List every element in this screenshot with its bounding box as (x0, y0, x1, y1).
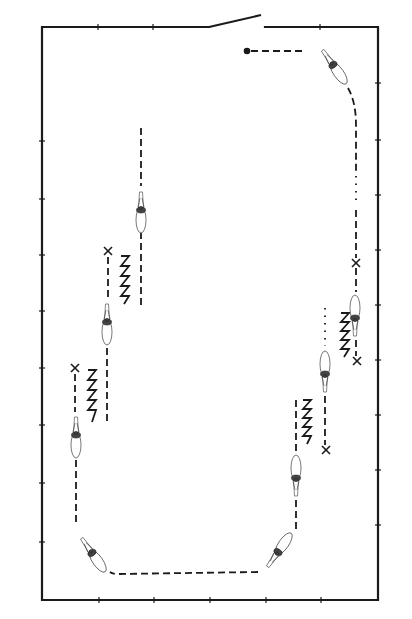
horse-rider-2 (350, 295, 360, 336)
zigzag-1 (341, 313, 349, 357)
horse-rider-5 (264, 530, 296, 569)
zigzag-symbols (88, 256, 349, 444)
horse-rider-8 (102, 304, 112, 345)
horse-rider-3 (320, 351, 330, 392)
x-marker-2 (353, 357, 361, 365)
horse-rider-9 (136, 192, 146, 233)
zigzag-4 (121, 256, 129, 304)
horses (71, 47, 360, 574)
x-marker-3 (322, 446, 330, 454)
riding-track (75, 51, 356, 574)
arena-walls (42, 15, 378, 600)
horse-rider-6 (78, 535, 110, 574)
horse-rider-1 (319, 47, 351, 86)
wall-top-left (42, 27, 378, 600)
x-marker-5 (104, 247, 112, 255)
wall-ticks (39, 24, 381, 603)
arena-diagram (0, 0, 412, 619)
horse-rider-7 (71, 417, 81, 458)
track-bottom-straight (110, 572, 258, 574)
arena-gate (209, 15, 261, 27)
track-corner-top-right (348, 88, 356, 172)
zigzag-2 (303, 400, 311, 444)
start-point-marker (244, 48, 251, 55)
x-markers (71, 247, 361, 454)
x-marker-1 (352, 259, 360, 267)
zigzag-3 (88, 370, 96, 422)
x-marker-4 (71, 364, 79, 372)
horse-rider-4 (291, 455, 301, 496)
